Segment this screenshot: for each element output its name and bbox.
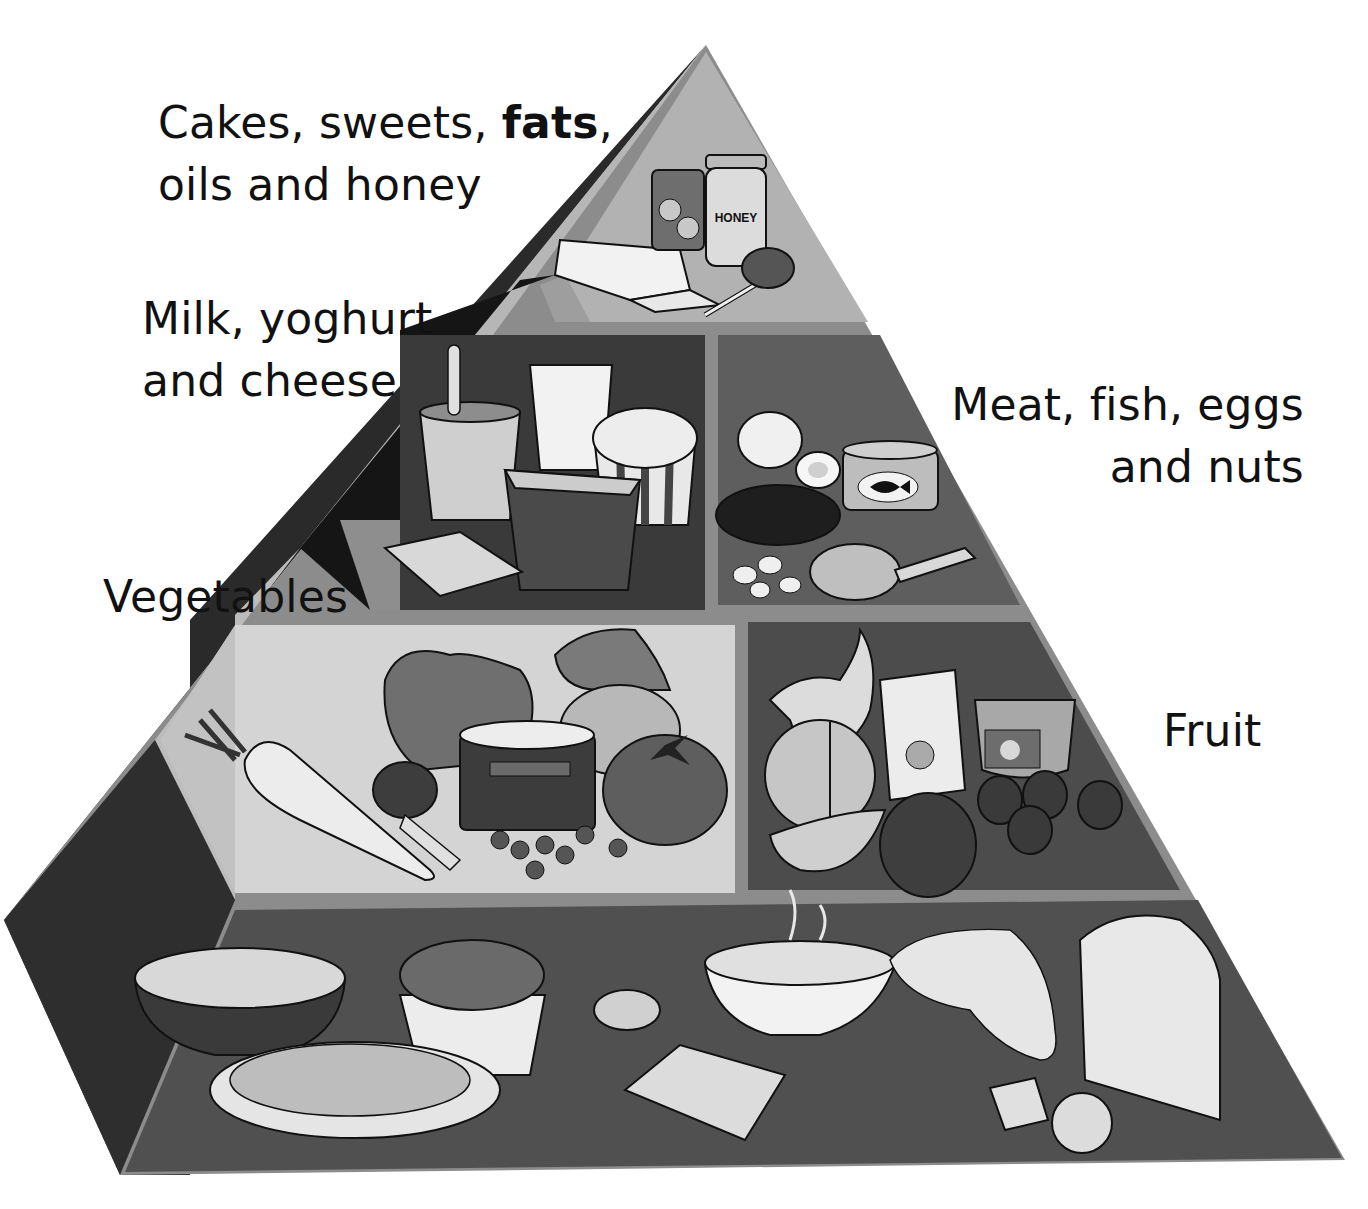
label-top-prefix: Cakes, sweets, [158, 97, 502, 148]
food-fish-tin [843, 441, 938, 510]
label-dairy-line2: and cheese [142, 350, 432, 412]
food-burger [716, 485, 840, 545]
food-apple [880, 793, 976, 897]
label-cakes-sweets-fats: Cakes, sweets, fats, oils and honey [158, 92, 613, 216]
honey-jar-label: HONEY [715, 211, 758, 225]
label-protein-line2: and nuts [951, 436, 1304, 498]
label-milk-yoghurt-cheese: Milk, yoghurt and cheese [142, 288, 432, 412]
food-can-of-peas [460, 721, 595, 830]
food-spaghetti-plate [210, 1042, 500, 1138]
label-meat-fish-eggs-nuts: Meat, fish, eggs and nuts [951, 374, 1304, 498]
food-tomato [603, 735, 727, 845]
food-canned-fruit [652, 170, 704, 250]
label-top-suffix: , [599, 97, 613, 148]
food-yoghurt-cup [505, 470, 640, 590]
label-protein-line1: Meat, fish, eggs [951, 374, 1304, 436]
food-fruit-cup [975, 700, 1075, 778]
label-fruit: Fruit [1163, 700, 1262, 762]
food-juice-carton [880, 670, 965, 800]
label-top-line1: Cakes, sweets, fats, [158, 92, 613, 154]
label-top-line2: oils and honey [158, 154, 613, 216]
label-vegetables: Vegetables [103, 566, 348, 628]
food-pyramid-diagram: HONEY [0, 0, 1368, 1209]
food-rice-cake [594, 990, 660, 1030]
label-top-bold-word: fats [502, 97, 599, 148]
label-dairy-line1: Milk, yoghurt [142, 288, 432, 350]
